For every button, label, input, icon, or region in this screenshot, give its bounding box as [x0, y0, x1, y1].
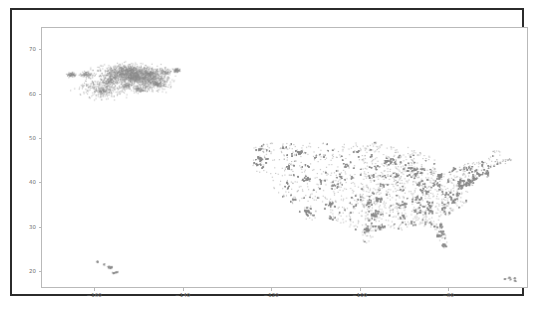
x-axis-tick-mark — [94, 288, 95, 291]
y-axis-tick-mark — [39, 271, 42, 272]
x-axis-tick-label: −120 — [264, 292, 279, 298]
y-axis-tick-label: 50 — [19, 135, 36, 141]
y-axis-tick-mark — [39, 94, 42, 95]
y-axis-tick-label: 40 — [19, 179, 36, 185]
x-axis-tick-label: −100 — [352, 292, 367, 298]
x-axis-tick-mark — [448, 288, 449, 291]
y-axis-tick-mark — [39, 49, 42, 50]
scatter-points-canvas — [42, 28, 527, 287]
plot-axes-area — [41, 27, 528, 288]
figure-frame: 203040506070−160−140−120−100−80 — [10, 8, 524, 296]
y-axis-tick-label: 70 — [19, 46, 36, 52]
y-axis-tick-label: 30 — [19, 224, 36, 230]
x-axis-tick-mark — [271, 288, 272, 291]
y-axis-tick-mark — [39, 138, 42, 139]
y-axis-tick-mark — [39, 227, 42, 228]
scatter-plot-screenshot: 203040506070−160−140−120−100−80 — [0, 0, 534, 311]
y-axis-tick-label: 60 — [19, 91, 36, 97]
y-axis-tick-mark — [39, 182, 42, 183]
y-axis-tick-label: 20 — [19, 268, 36, 274]
x-axis-tick-label: −140 — [175, 292, 190, 298]
x-axis-tick-label: −160 — [87, 292, 102, 298]
x-axis-tick-mark — [360, 288, 361, 291]
x-axis-tick-label: −80 — [442, 292, 454, 298]
x-axis-tick-mark — [183, 288, 184, 291]
